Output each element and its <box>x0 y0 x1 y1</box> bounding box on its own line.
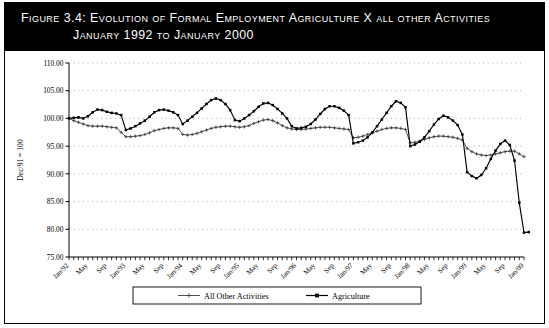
x-axis-tick-label: Jan/98 <box>393 261 412 280</box>
series-all-other-activities <box>67 117 525 159</box>
y-axis-tick-label: 90.00 <box>47 170 64 179</box>
y-axis-tick-label: 80.00 <box>47 225 64 234</box>
legend-label: Agriculture <box>332 292 370 301</box>
y-axis-tick-label: 105.00 <box>43 86 64 95</box>
x-axis-tick-label: Jan/94 <box>165 261 184 280</box>
x-axis-tick-label: May <box>473 261 488 276</box>
x-axis-tick-label: Jan/95 <box>222 261 241 280</box>
x-axis-tick-label: Jan/96 <box>279 261 298 280</box>
x-axis-tick-label: May <box>74 261 89 276</box>
y-axis-tick-label: 95.00 <box>47 142 64 151</box>
y-axis-tick-label: 75.00 <box>47 253 64 262</box>
x-axis-tick-label: Jan/92 <box>51 261 70 280</box>
x-axis-tick-label: Jan/99 <box>450 261 469 280</box>
x-axis-tick-label: Sep <box>436 261 450 275</box>
chart-legend: All Other ActivitiesAgriculture <box>133 287 421 304</box>
y-axis-labels: 75.0080.0085.0090.0095.00100.00105.00110… <box>43 59 64 262</box>
legend-label: All Other Activities <box>204 292 269 301</box>
x-axis-tick-label: Jan/97 <box>336 261 355 280</box>
line-chart: 75.0080.0085.0090.0095.00100.00105.00110… <box>5 51 544 323</box>
grid-lines <box>69 63 524 229</box>
x-axis-tick-label: Sep <box>95 261 109 275</box>
chart-area: 75.0080.0085.0090.0095.00100.00105.00110… <box>5 51 544 323</box>
x-axis-tick-label: Sep <box>152 261 166 275</box>
x-axis-tick-label: May <box>416 261 431 276</box>
x-axis-tick-label: Sep <box>493 261 507 275</box>
figure-title-line-2: January 1992 to January 2000 <box>21 27 533 44</box>
x-axis-tick-label: Sep <box>323 261 337 275</box>
y-axis-title: Dec/91 = 100 <box>16 139 25 181</box>
x-axis-tick-label: Sep <box>266 261 280 275</box>
figure-title: Figure 3.4: Evolution of Formal Employme… <box>21 10 533 44</box>
x-axis-tick-label: May <box>302 261 317 276</box>
x-axis-labels: Jan/92MaySepJan/93MaySepJan/94MaySepJan/… <box>51 261 525 280</box>
x-axis-tick-label: Sep <box>209 261 223 275</box>
x-axis-tick-label: May <box>131 261 146 276</box>
y-axis-tick-label: 100.00 <box>43 114 64 123</box>
x-axis-tick-label: May <box>245 261 260 276</box>
figure-container: Figure 3.4: Evolution of Formal Employme… <box>0 0 549 328</box>
y-axis-ticks <box>66 63 70 257</box>
y-axis-tick-label: 110.00 <box>43 59 63 68</box>
figure-title-bar: Figure 3.4: Evolution of Formal Employme… <box>5 3 544 51</box>
x-axis-tick-label: Jan/00 <box>506 261 525 280</box>
series-agriculture <box>68 97 530 234</box>
x-axis-tick-label: May <box>188 261 203 276</box>
x-axis-tick-label: Jan/93 <box>108 261 127 280</box>
x-axis-tick-label: May <box>359 261 374 276</box>
x-axis-tick-label: Sep <box>379 261 393 275</box>
figure-title-line-1: Figure 3.4: Evolution of Formal Employme… <box>21 11 490 25</box>
y-axis-tick-label: 85.00 <box>47 197 64 206</box>
